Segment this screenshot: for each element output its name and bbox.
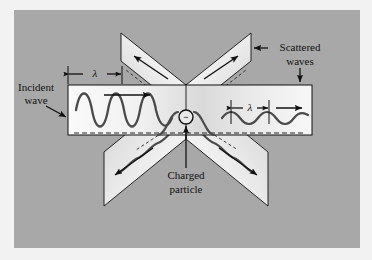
incident-wave-label-line1: Incident (18, 81, 54, 93)
wavelength-right-label: λ (247, 101, 253, 113)
wavelength-left-label: λ (92, 67, 98, 79)
wave-panel: λ (68, 85, 312, 135)
charged-particle-label-line1: Charged (167, 169, 205, 181)
physics-scattering-figure: λ − λ Incident wave Scattered waves (0, 0, 372, 260)
charged-particle-sign: − (183, 112, 188, 122)
charged-particle: − (179, 110, 193, 124)
wave-panel-frame (68, 85, 312, 135)
charged-particle-label-line2: particle (170, 183, 203, 195)
scattered-waves-label-line2: waves (286, 55, 314, 67)
scattering-diagram-canvas: λ − λ Incident wave Scattered waves (0, 0, 372, 260)
scattered-waves-label-line1: Scattered (280, 41, 321, 53)
incident-wave-label-line2: wave (24, 94, 47, 106)
